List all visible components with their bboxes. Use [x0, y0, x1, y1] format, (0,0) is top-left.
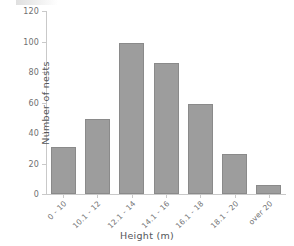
x-tick — [200, 194, 201, 198]
x-tick-label: 18.1 - 20 — [208, 199, 239, 230]
bar — [188, 104, 213, 194]
scan-artifact — [16, 0, 58, 5]
y-tick-label: 100 — [23, 37, 39, 46]
plot-area: 020406080100120 0 - 1010.1 - 1212.1 - 14… — [46, 11, 286, 194]
x-tick — [63, 194, 64, 198]
bar-chart-figure: 020406080100120 0 - 1010.1 - 1212.1 - 14… — [0, 0, 294, 246]
y-tick-label: 20 — [28, 159, 39, 168]
y-axis-title: Number of nests — [40, 43, 51, 163]
x-tick — [269, 194, 270, 198]
bar — [85, 119, 110, 194]
x-tick-label: 10.1 - 12 — [71, 199, 102, 230]
x-tick — [132, 194, 133, 198]
y-tick-label: 120 — [23, 7, 39, 16]
x-tick-label: 12.1 - 14 — [106, 199, 137, 230]
x-tick — [235, 194, 236, 198]
x-tick-label: 16.1 - 18 — [174, 199, 205, 230]
bar — [119, 43, 144, 194]
bar — [222, 154, 247, 194]
x-tick — [166, 194, 167, 198]
y-tick-label: 40 — [28, 129, 39, 138]
y-tick-label: 80 — [28, 68, 39, 77]
y-tick — [42, 194, 46, 195]
x-tick-label: 14.1 - 16 — [140, 199, 171, 230]
x-axis-title: Height (m) — [0, 230, 294, 241]
x-tick-label: 0 - 10 — [46, 199, 69, 222]
bar — [51, 147, 76, 194]
bar — [256, 185, 281, 194]
y-tick-label: 60 — [28, 98, 39, 107]
bar — [154, 63, 179, 194]
y-tick-label: 0 — [34, 190, 39, 199]
x-tick — [97, 194, 98, 198]
bar-series — [46, 11, 286, 194]
x-tick-label: over 20 — [247, 199, 275, 227]
